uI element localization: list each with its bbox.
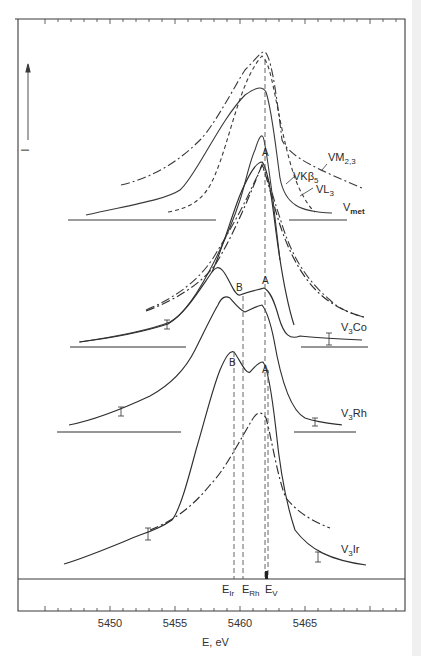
- visible-curves: [79, 254, 240, 342]
- peak-a-v3rh: A: [262, 365, 269, 375]
- label-v3co-co: Co: [353, 321, 367, 333]
- label-e-ir-sub: Ir: [229, 589, 234, 598]
- curve-vkb5: [86, 88, 332, 215]
- arrow-head-icon: [26, 64, 30, 72]
- curve-v3rh: [69, 297, 342, 425]
- v3co-line-visible: [79, 252, 240, 342]
- peak-b-v3co: B: [236, 283, 243, 293]
- label-e-v: EV: [265, 584, 278, 598]
- x-tick-5465: 5465: [293, 617, 317, 629]
- curve-v3ir: [64, 352, 366, 565]
- x-tick-5455: 5455: [163, 617, 187, 629]
- v3co-spectrum-path: [79, 231, 236, 342]
- label-v3ir-ir: Ir: [353, 543, 360, 555]
- label-vkb5: VKβ5: [293, 171, 318, 185]
- v3co-plot: [79, 263, 240, 342]
- xray-emission-spectra-chart: I VM2,3 VKβ5 VL3 Vmet V3Co V3Rh V3Ir A B…: [0, 0, 421, 656]
- label-vm23-main: VM: [328, 151, 345, 163]
- label-v3ir: V3Ir: [341, 544, 360, 558]
- spectra: [79, 286, 362, 342]
- vl3-leader: [300, 188, 313, 196]
- label-v3co: V3Co: [341, 322, 367, 336]
- curve-v3co: [79, 286, 362, 342]
- label-v3rh: V3Rh: [341, 408, 367, 422]
- ev-marker-block: [265, 571, 268, 579]
- curve-vl3: [168, 56, 315, 212]
- label-vl3-sub: 3: [329, 189, 333, 198]
- v3co-curve-drawn: [80, 259, 238, 342]
- label-e-v-sub: V: [272, 589, 277, 598]
- x-axis-label: E, eV: [202, 636, 229, 648]
- v3rh-errorbar-right: [312, 418, 318, 426]
- label-vmet: Vmet: [343, 202, 365, 216]
- page-edge: [412, 0, 421, 656]
- series-v3co-curve: [79, 290, 240, 342]
- v3co-final: [79, 268, 362, 342]
- label-vm23-sub: 2,3: [345, 157, 356, 166]
- curve-v3co: [80, 135, 362, 342]
- peak-a-vmet: A: [262, 148, 269, 158]
- top-axis-ticks: [45, 19, 396, 24]
- curve-v3co-render: [79, 250, 362, 342]
- curve-v3co-visible: [80, 269, 362, 342]
- label-e-rh: ERh: [242, 584, 260, 598]
- v3co-spectrum-line: [79, 270, 240, 342]
- label-vl3-main: VL: [316, 183, 329, 195]
- x-tick-5460: 5460: [228, 617, 252, 629]
- peak-a-v3co: A: [262, 276, 269, 286]
- label-vm23: VM2,3: [328, 152, 356, 166]
- v3co-visible-curve: [79, 253, 240, 342]
- curve-v3co-spectrum: [80, 136, 280, 342]
- v3ir-errorbar-right: [315, 552, 321, 562]
- label-e-ir: EIr: [222, 584, 234, 598]
- label-e-rh-sub: Rh: [249, 589, 259, 598]
- x-tick-5450: 5450: [98, 617, 122, 629]
- label-vkb5-main: VKβ: [293, 170, 314, 182]
- v3co-drawn-curve: [79, 250, 362, 342]
- v3co-curve: [79, 251, 240, 342]
- v3co-solid: [79, 254, 240, 342]
- label-vmet-sub: met: [350, 207, 364, 216]
- peak-b-v3rh: B: [229, 358, 236, 368]
- label-vl3: VL3: [316, 184, 334, 198]
- v3co-line: [80, 249, 362, 343]
- label-v3rh-rh: Rh: [353, 407, 367, 419]
- curve-vm23: [121, 52, 362, 188]
- chart-frame: [15, 19, 405, 611]
- curve-v3co-final: [80, 268, 362, 342]
- v3co-spectrum: [79, 228, 238, 342]
- v3co-errorbar-right: [326, 333, 332, 345]
- v3co-trace: [80, 257, 240, 342]
- bottom-axis-ticks: [45, 606, 396, 611]
- vm23-leader: [322, 164, 327, 170]
- y-axis-label: I: [21, 149, 31, 152]
